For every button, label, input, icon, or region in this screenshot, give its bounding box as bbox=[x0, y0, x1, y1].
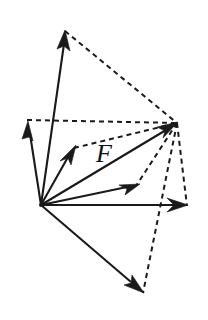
component-vector-down-right bbox=[41, 205, 144, 293]
component-vector-mid-right bbox=[41, 184, 140, 205]
construction-line-right-edge bbox=[177, 123, 187, 206]
vector-diagram-canvas: F bbox=[0, 0, 208, 320]
vector-diagram-figure: F bbox=[0, 0, 208, 320]
component-vector-down-right-shaft bbox=[41, 205, 131, 282]
origin-point bbox=[39, 203, 43, 207]
force-label-F: F bbox=[95, 139, 113, 168]
construction-line-horizontal-upper bbox=[27, 120, 177, 123]
component-vector-diagonal-arrowhead bbox=[60, 145, 76, 165]
component-vector-upper-left bbox=[22, 121, 41, 205]
component-vector-up-shaft bbox=[41, 44, 64, 205]
construction-line-mid-right bbox=[136, 123, 177, 186]
component-vector-upper-left-shaft bbox=[30, 134, 41, 205]
component-vector-upper-left-arrowhead bbox=[22, 121, 33, 141]
component-vector-mid-right-arrowhead bbox=[119, 184, 140, 195]
construction-line-top bbox=[65, 31, 177, 123]
component-vector-mid-right-shaft bbox=[41, 187, 127, 205]
